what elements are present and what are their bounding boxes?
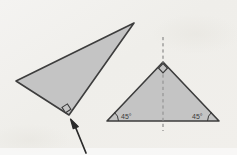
left-base-angle-label: 45°: [121, 113, 132, 120]
geometry-figure: 45° 45°: [0, 0, 237, 155]
paper-smudge-top-right: [152, 14, 237, 54]
paper-bottom-edge: [0, 148, 237, 155]
right-base-angle-label: 45°: [192, 113, 203, 120]
figure-canvas: 45° 45°: [0, 0, 237, 155]
